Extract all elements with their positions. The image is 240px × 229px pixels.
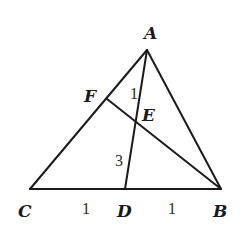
segment-fb [107,99,221,189]
label-angle-1: 1 [130,85,138,102]
label-point-a: A [142,23,157,43]
segment-ab [147,50,221,189]
label-point-e: E [141,105,156,125]
label-point-f: F [83,86,98,106]
label-point-d: D [116,201,132,221]
label-segment-cd-1: 1 [82,200,90,217]
label-point-c: C [18,201,32,221]
geometry-diagram: A F E C D B 1 3 1 1 [0,0,240,229]
label-point-b: B [212,201,227,221]
label-segment-ed-3: 3 [115,152,123,169]
triangle-figure: A F E C D B 1 3 1 1 [0,0,240,229]
label-segment-db-1: 1 [168,200,176,217]
segment-ac [30,50,147,189]
